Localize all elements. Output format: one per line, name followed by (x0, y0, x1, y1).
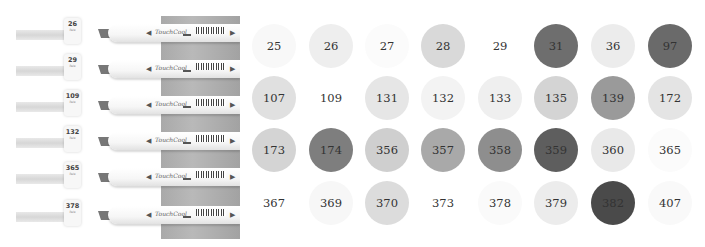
barcode-icon (196, 99, 226, 106)
swatch-label: 36 (606, 39, 621, 53)
brand-mark-icon (183, 101, 191, 108)
color-swatch: 407 (648, 181, 692, 225)
color-swatch: 107 (252, 76, 296, 120)
arrow-left-icon: ◀ (146, 101, 151, 109)
cap-number: 26 (64, 20, 81, 28)
cap-subtext: Pale (64, 100, 81, 104)
arrow-left-icon: ◀ (146, 65, 151, 73)
color-swatch: 367 (252, 181, 296, 225)
arrow-right-icon: ▶ (230, 211, 235, 219)
color-swatch: 97 (648, 24, 692, 68)
color-swatch: 27 (365, 24, 409, 68)
marker-barrel-end (16, 30, 64, 40)
marker-cap: 365 Pale (64, 162, 81, 188)
swatch-label: 369 (320, 196, 342, 210)
color-swatch: 382 (591, 181, 635, 225)
marker-barrel-end (16, 102, 64, 112)
swatch-label: 139 (602, 91, 624, 105)
marker-cap: 29 Pale (64, 54, 81, 80)
swatch-label: 31 (549, 39, 564, 53)
swatch-label: 174 (320, 143, 342, 157)
color-swatch: 379 (534, 181, 578, 225)
brand-mark-icon (183, 65, 191, 72)
color-swatch: 135 (534, 76, 578, 120)
cap-subtext: Pale (64, 172, 81, 176)
swatch-label: 107 (263, 91, 285, 105)
marker-cap: 132 Pale (64, 126, 81, 152)
arrow-left-icon: ◀ (146, 211, 151, 219)
color-swatch: 109 (309, 76, 353, 120)
color-swatch: 356 (365, 128, 409, 172)
marker-barrel-end (16, 66, 64, 76)
swatch-label: 360 (602, 143, 624, 157)
brand-mark-icon (183, 137, 191, 144)
swatch-label: 359 (545, 143, 567, 157)
color-swatch: 26 (309, 24, 353, 68)
arrow-right-icon: ▶ (230, 137, 235, 145)
cap-number: 109 (64, 92, 81, 100)
marker-pen: 109 Pale ◀ TouchCool ▶ (0, 88, 240, 124)
marker-barrel-end (16, 212, 64, 222)
color-swatch: 359 (534, 128, 578, 172)
cap-number: 365 (64, 164, 81, 172)
color-swatch: 365 (648, 128, 692, 172)
swatch-label: 358 (489, 143, 511, 157)
swatch-label: 370 (376, 196, 398, 210)
marker-pen: 132 Pale ◀ TouchCool ▶ (0, 124, 240, 160)
barcode-icon (196, 171, 226, 178)
marker-pen: 365 Pale ◀ TouchCool ▶ (0, 160, 240, 196)
swatch-label: 378 (489, 196, 511, 210)
barcode-icon (196, 27, 226, 34)
color-swatch: 131 (365, 76, 409, 120)
color-swatch: 174 (309, 128, 353, 172)
swatch-label: 131 (376, 91, 398, 105)
color-swatch: 370 (365, 181, 409, 225)
arrow-right-icon: ▶ (230, 101, 235, 109)
swatch-label: 28 (436, 39, 451, 53)
color-swatch: 25 (252, 24, 296, 68)
color-swatch: 36 (591, 24, 635, 68)
marker-cap: 26 Pale (64, 18, 81, 44)
swatch-label: 133 (489, 91, 511, 105)
cap-subtext: Pale (64, 28, 81, 32)
swatch-label: 26 (324, 39, 339, 53)
color-swatch: 373 (421, 181, 465, 225)
swatch-label: 109 (320, 91, 342, 105)
swatch-label: 379 (545, 196, 567, 210)
swatch-label: 356 (376, 143, 398, 157)
swatch-label: 173 (263, 143, 285, 157)
swatch-label: 97 (663, 39, 678, 53)
cap-subtext: Pale (64, 64, 81, 68)
color-swatch: 29 (478, 24, 522, 68)
swatch-label: 172 (659, 91, 681, 105)
color-swatch: 358 (478, 128, 522, 172)
color-swatch: 28 (421, 24, 465, 68)
color-swatch: 132 (421, 76, 465, 120)
color-swatch: 173 (252, 128, 296, 172)
color-swatch: 378 (478, 181, 522, 225)
marker-pen: 29 Pale ◀ TouchCool ▶ (0, 52, 240, 88)
swatch-label: 367 (263, 196, 285, 210)
cap-number: 29 (64, 56, 81, 64)
swatch-label: 135 (545, 91, 567, 105)
arrow-right-icon: ▶ (230, 173, 235, 181)
brand-mark-icon (183, 173, 191, 180)
arrow-right-icon: ▶ (230, 65, 235, 73)
arrow-left-icon: ◀ (146, 137, 151, 145)
arrow-right-icon: ▶ (230, 29, 235, 37)
cap-number: 132 (64, 128, 81, 136)
barcode-icon (196, 135, 226, 142)
swatch-label: 29 (493, 39, 508, 53)
brand-mark-icon (183, 29, 191, 36)
barcode-icon (196, 209, 226, 216)
marker-product-photo: 26 Pale ◀ TouchCool ▶ 29 Pale ◀ TouchCoo… (0, 0, 240, 247)
marker-barrel-end (16, 174, 64, 184)
color-swatch: 172 (648, 76, 692, 120)
color-swatch: 133 (478, 76, 522, 120)
marker-pen: 26 Pale ◀ TouchCool ▶ (0, 16, 240, 52)
swatch-label: 382 (602, 196, 624, 210)
swatch-label: 407 (659, 196, 681, 210)
swatch-label: 132 (432, 91, 454, 105)
marker-barrel-end (16, 138, 64, 148)
swatch-label: 357 (432, 143, 454, 157)
